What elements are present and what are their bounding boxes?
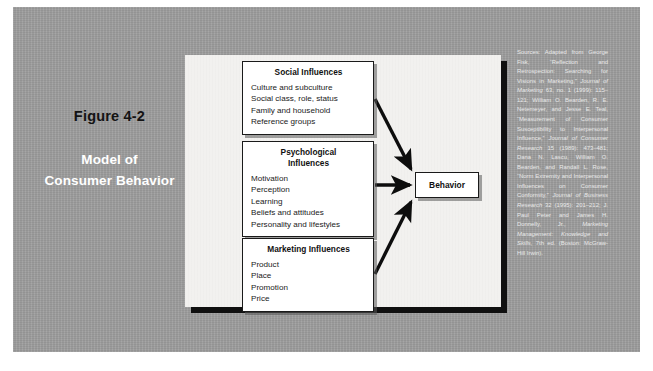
list-item: Family and household: [251, 105, 366, 116]
box-psychological-title: Psychological Influences: [251, 147, 366, 169]
sources-note: Sources: Adapted from George Fisk, “Refl…: [517, 48, 608, 258]
box-social-list: Culture and subculture Social class, rol…: [251, 82, 366, 128]
box-marketing-influences[interactable]: Marketing Influences Product Place Promo…: [242, 238, 374, 312]
arrow-social-to-behavior: [375, 99, 411, 169]
list-item: Place: [251, 270, 366, 281]
list-item: Promotion: [251, 282, 366, 293]
box-marketing-title: Marketing Influences: [251, 244, 366, 255]
list-item: Motivation: [251, 173, 366, 184]
figure-title: Model of Consumer Behavior: [22, 150, 197, 192]
box-psychological-influences[interactable]: Psychological Influences Motivation Perc…: [242, 141, 374, 237]
figure-title-line-1: Model of: [22, 150, 197, 171]
figure-number-label: Figure 4-2: [22, 108, 197, 124]
list-item: Social class, role, status: [251, 93, 366, 104]
arrow-marketing-to-behavior: [375, 202, 411, 274]
box-psychological-title-line-1: Psychological: [251, 147, 366, 158]
box-social-influences[interactable]: Social Influences Culture and subculture…: [242, 61, 374, 135]
slide-canvas: Figure 4-2 Model of Consumer Behavior So…: [0, 0, 653, 371]
sources-text-run: 63, no. 1 (1999): 115–121; William O. Be…: [517, 87, 608, 141]
list-item: Learning: [251, 196, 366, 207]
list-item: Price: [251, 293, 366, 304]
list-item: Personality and lifestyles: [251, 219, 366, 230]
list-item: Beliefs and attitudes: [251, 207, 366, 218]
box-psychological-list: Motivation Perception Learning Beliefs a…: [251, 173, 366, 230]
list-item: Culture and subculture: [251, 82, 366, 93]
list-item: Perception: [251, 184, 366, 195]
box-psychological-title-line-2: Influences: [251, 158, 366, 169]
diagram-panel: Social Influences Culture and subculture…: [185, 55, 501, 307]
sources-text-run: 15 (1989): 473–481; Dana N. Lascu, Willi…: [517, 145, 608, 199]
box-social-title: Social Influences: [251, 67, 366, 78]
box-marketing-list: Product Place Promotion Price: [251, 259, 366, 305]
list-item: Product: [251, 259, 366, 270]
list-item: Reference groups: [251, 116, 366, 127]
box-behavior-outcome[interactable]: Behavior: [415, 172, 479, 198]
figure-caption: Figure 4-2 Model of Consumer Behavior: [22, 108, 197, 192]
box-behavior-label: Behavior: [429, 180, 465, 190]
figure-title-line-2: Consumer Behavior: [22, 171, 197, 192]
